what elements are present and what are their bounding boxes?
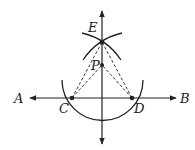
label-a: A bbox=[13, 91, 23, 106]
label-c: C bbox=[59, 101, 69, 116]
label-e: E bbox=[87, 20, 98, 35]
point-p bbox=[100, 63, 104, 67]
point-d bbox=[130, 96, 135, 101]
point-e bbox=[100, 40, 105, 45]
label-d: D bbox=[133, 101, 145, 116]
label-b: B bbox=[179, 91, 190, 106]
geometry-diagram: A B C D E P bbox=[0, 0, 195, 150]
point-c bbox=[70, 96, 75, 101]
label-p: P bbox=[90, 58, 100, 73]
